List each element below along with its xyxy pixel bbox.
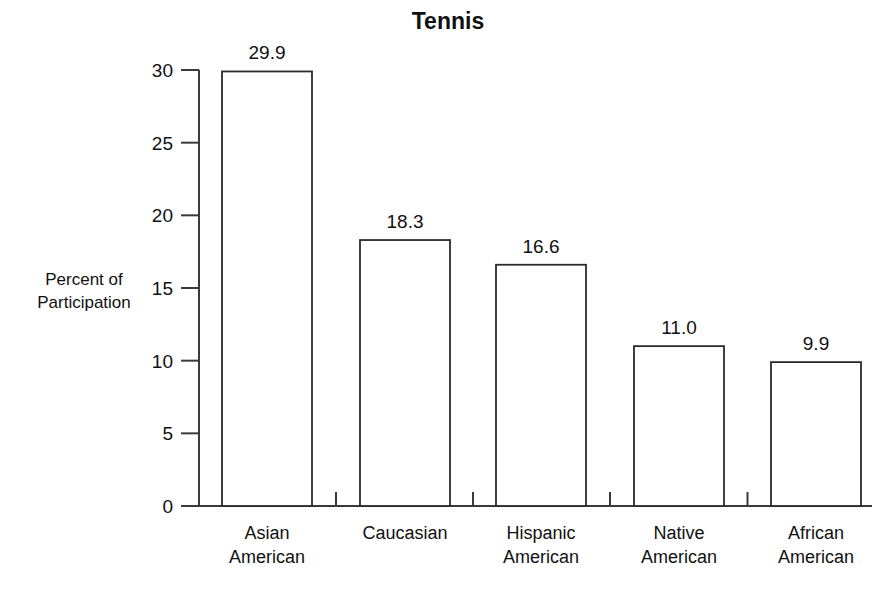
x-category-label: African (788, 523, 844, 543)
y-tick-group: 051015202530 (152, 60, 199, 517)
y-tick-label: 5 (162, 423, 173, 444)
bar-value-label: 29.9 (249, 42, 286, 63)
plot-area: 051015202530 29.918.316.611.09.9 AsianAm… (0, 0, 896, 590)
x-category-label: American (503, 547, 579, 567)
bar[interactable] (496, 265, 586, 506)
y-tick-label: 10 (152, 351, 173, 372)
bars-group (222, 71, 861, 506)
x-category-label: Caucasian (362, 523, 447, 543)
bar[interactable] (222, 71, 312, 506)
x-category-label: American (229, 547, 305, 567)
x-category-label: American (778, 547, 854, 567)
bar-value-label: 18.3 (387, 211, 424, 232)
bar-value-label: 9.9 (803, 333, 829, 354)
y-tick-label: 0 (162, 496, 173, 517)
x-category-label: American (641, 547, 717, 567)
bar[interactable] (634, 346, 724, 506)
x-category-label: Asian (244, 523, 289, 543)
bar[interactable] (771, 362, 861, 506)
bar-value-label: 11.0 (661, 317, 697, 338)
y-tick-label: 20 (152, 205, 173, 226)
bar-value-label: 16.6 (523, 236, 560, 257)
bar[interactable] (360, 240, 450, 506)
x-category-label: Native (653, 523, 704, 543)
y-tick-label: 30 (152, 60, 173, 81)
x-category-label: Hispanic (506, 523, 575, 543)
bar-chart: Tennis Percent of Participation 05101520… (0, 0, 896, 590)
category-label-group: AsianAmericanCaucasianHispanicAmericanNa… (229, 523, 854, 567)
y-tick-label: 25 (152, 133, 173, 154)
y-tick-label: 15 (152, 278, 173, 299)
